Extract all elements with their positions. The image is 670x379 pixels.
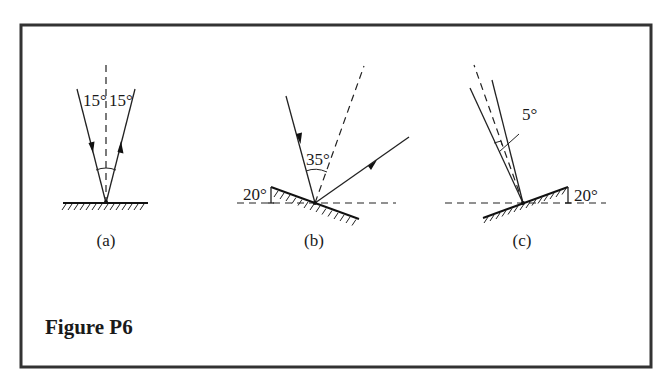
arrow-up-icon	[118, 141, 124, 154]
angle-arc-a	[96, 168, 116, 170]
incident-ray-c	[470, 88, 523, 203]
angle-label-c: 5°	[522, 105, 537, 124]
reflected-ray-c	[492, 80, 523, 203]
panel-a: 15° 15° (a)	[62, 65, 148, 250]
mirror-hatching-b	[274, 191, 356, 226]
panel-label-c: (c)	[513, 231, 532, 250]
angle-label-incident-a: 15°	[83, 91, 107, 110]
tilt-angle-label-b: 20°	[243, 185, 267, 204]
arrow-down-icon	[89, 142, 95, 154]
panel-b: 20° 35° (b)	[237, 66, 409, 250]
normal-line-c	[474, 65, 523, 203]
mirror-hatching-c	[484, 189, 566, 224]
panel-c: 20° 5° (c)	[445, 65, 606, 250]
panel-label-b: (b)	[304, 231, 324, 250]
incidence-point-b	[313, 201, 317, 205]
mirror-hatching-a	[62, 204, 144, 210]
angle-label-b: 35°	[306, 150, 330, 169]
angle-label-reflected-a: 15°	[109, 91, 133, 110]
figure-p6-diagram: 15° 15° (a)	[0, 0, 670, 379]
panel-label-a: (a)	[97, 231, 116, 250]
incidence-point-c	[521, 201, 525, 205]
angle-arc-b	[306, 169, 327, 172]
normal-line-b	[315, 66, 364, 203]
reflected-ray-b	[315, 137, 409, 203]
incidence-point-a	[104, 200, 108, 204]
figure-caption: Figure P6	[45, 315, 133, 339]
tilt-angle-label-c: 20°	[574, 186, 598, 205]
